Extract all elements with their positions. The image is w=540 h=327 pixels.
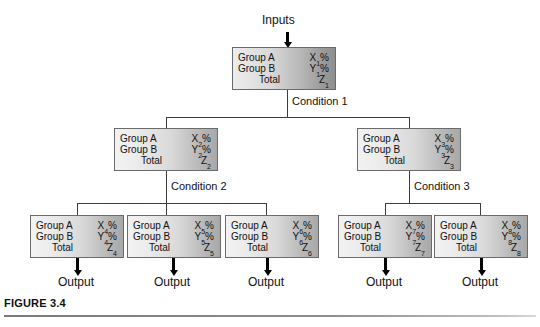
node-box-2[interactable]: Group A X2% Group B Y2% Total Z2 bbox=[114, 128, 218, 171]
connector-level2-left-down bbox=[166, 117, 167, 128]
inputs-label: Inputs bbox=[262, 14, 295, 26]
caption-divider bbox=[4, 315, 536, 317]
node-2-row-group-a: Group A X2% bbox=[120, 133, 211, 144]
node-3-total-label: Total bbox=[363, 155, 444, 166]
node-2-total-value: Z2 bbox=[201, 155, 211, 166]
node-4-group-b-label: Group B bbox=[36, 231, 73, 242]
connector-node3-down bbox=[409, 171, 410, 203]
node-4-group-a-value: X4% bbox=[98, 220, 117, 231]
node-1-group-b-label: Group B bbox=[238, 63, 275, 74]
node-1-group-a-value: X1% bbox=[310, 52, 329, 63]
node-5-group-a-value: X5% bbox=[195, 220, 214, 231]
node-box-1[interactable]: Group A X1% Group B Y1% Total Z1 bbox=[232, 47, 336, 90]
node-4-row-group-a: Group A X4% bbox=[36, 220, 117, 231]
node-3-row-group-a: Group A X3% bbox=[363, 133, 454, 144]
node-3-group-b-label: Group B bbox=[363, 144, 400, 155]
node-8-group-b-label: Group B bbox=[440, 231, 477, 242]
condition-1-label: Condition 1 bbox=[292, 95, 348, 107]
output-label-3: Output bbox=[248, 276, 284, 288]
output-label-4: Output bbox=[366, 276, 402, 288]
node-box-8[interactable]: Group A X8% Group B Y8% Total Z8 bbox=[434, 215, 528, 258]
node-5-total-label: Total bbox=[133, 242, 204, 253]
node-7-group-a-value: X7% bbox=[406, 220, 425, 231]
node-7-total-value: Z7 bbox=[415, 242, 425, 253]
node-1-total-value: Z1 bbox=[319, 74, 329, 85]
node-5-total-value: Z5 bbox=[204, 242, 214, 253]
node-3-group-a-label: Group A bbox=[363, 133, 400, 144]
node-6-row-group-a: Group A X6% bbox=[231, 220, 312, 231]
node-box-7[interactable]: Group A X7% Group B Y7% Total Z7 bbox=[338, 215, 432, 258]
figure-3-4-flowchart: Inputs Group A X1% Group B Y1% Total Z1 … bbox=[0, 0, 540, 327]
node-4-group-a-label: Group A bbox=[36, 220, 73, 231]
node-7-group-b-label: Group B bbox=[344, 231, 381, 242]
node-5-group-b-label: Group B bbox=[133, 231, 170, 242]
connector-leaf6-down bbox=[266, 203, 267, 215]
node-box-4[interactable]: Group A X4% Group B Y4% Total Z4 bbox=[30, 215, 124, 258]
node-2-total-label: Total bbox=[120, 155, 201, 166]
node-8-row-group-a: Group A X8% bbox=[440, 220, 521, 231]
node-6-group-b-label: Group B bbox=[231, 231, 268, 242]
condition-2-label: Condition 2 bbox=[171, 180, 227, 192]
node-box-3[interactable]: Group A X3% Group B Y3% Total Z3 bbox=[357, 128, 461, 171]
output-label-2: Output bbox=[154, 276, 190, 288]
node-7-row-group-a: Group A X7% bbox=[344, 220, 425, 231]
node-4-total-label: Total bbox=[36, 242, 107, 253]
connector-leaf7-down bbox=[385, 203, 386, 215]
node-5-row-group-a: Group A X5% bbox=[133, 220, 214, 231]
node-box-5[interactable]: Group A X5% Group B Y5% Total Z5 bbox=[127, 215, 221, 258]
connector-leaf5-down bbox=[166, 203, 167, 215]
connector-level3-right-horizontal bbox=[385, 203, 480, 204]
connector-level2-right-down bbox=[409, 117, 410, 128]
connector-leaf8-down bbox=[480, 203, 481, 215]
node-4-total-value: Z4 bbox=[107, 242, 117, 253]
node-2-group-b-label: Group B bbox=[120, 144, 157, 155]
node-7-total-label: Total bbox=[344, 242, 415, 253]
connector-leaf4-down bbox=[77, 203, 78, 215]
node-8-group-a-value: X8% bbox=[502, 220, 521, 231]
node-6-group-a-label: Group A bbox=[231, 220, 268, 231]
output-label-5: Output bbox=[462, 276, 498, 288]
condition-3-label: Condition 3 bbox=[414, 180, 470, 192]
node-8-total-value: Z8 bbox=[511, 242, 521, 253]
node-6-total-label: Total bbox=[231, 242, 302, 253]
node-box-6[interactable]: Group A X6% Group B Y6% Total Z6 bbox=[225, 215, 319, 258]
connector-level3-left-horizontal bbox=[77, 203, 266, 204]
connector-root-down bbox=[287, 90, 288, 117]
figure-caption-text: FIGURE 3.4 bbox=[4, 297, 66, 309]
connector-node2-down bbox=[166, 171, 167, 203]
node-1-group-a-label: Group A bbox=[238, 52, 275, 63]
node-2-group-a-label: Group A bbox=[120, 133, 157, 144]
node-5-group-a-label: Group A bbox=[133, 220, 170, 231]
node-6-total-value: Z6 bbox=[302, 242, 312, 253]
node-1-total-label: Total bbox=[238, 74, 319, 85]
node-8-total-label: Total bbox=[440, 242, 511, 253]
node-2-group-a-value: X2% bbox=[192, 133, 211, 144]
node-3-total-value: Z3 bbox=[444, 155, 454, 166]
node-8-group-a-label: Group A bbox=[440, 220, 477, 231]
node-7-group-a-label: Group A bbox=[344, 220, 381, 231]
node-1-row-group-a: Group A X1% bbox=[238, 52, 329, 63]
output-label-1: Output bbox=[58, 276, 94, 288]
connector-level2-horizontal bbox=[166, 117, 409, 118]
node-6-group-a-value: X6% bbox=[293, 220, 312, 231]
node-3-group-a-value: X3% bbox=[435, 133, 454, 144]
